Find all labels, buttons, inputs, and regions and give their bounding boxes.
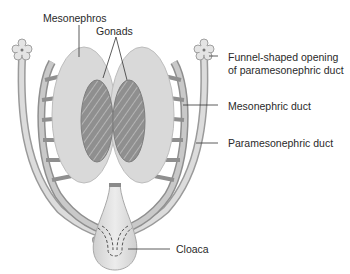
funnel-opening-right — [194, 39, 214, 60]
label-gonads: Gonads — [96, 25, 133, 37]
label-funnel-opening-line2: of paramesonephric duct — [228, 64, 344, 76]
label-mesonephros: Mesonephros — [43, 12, 107, 24]
gonad-left — [81, 80, 113, 162]
cloaca — [93, 183, 137, 270]
label-funnel-opening-line1: Funnel-shaped opening — [228, 51, 338, 63]
funnel-opening-left — [12, 39, 32, 60]
label-cloaca: Cloaca — [176, 243, 209, 255]
label-mesonephric-duct: Mesonephric duct — [228, 100, 311, 112]
label-paramesonephric-duct: Paramesonephric duct — [228, 137, 333, 149]
gonad-right — [113, 80, 145, 162]
